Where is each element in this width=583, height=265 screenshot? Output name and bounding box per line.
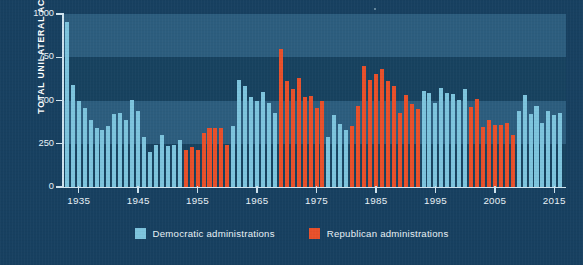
bar-1968[interactable] xyxy=(273,113,277,187)
bar-1980[interactable] xyxy=(344,130,348,187)
bar-2003[interactable] xyxy=(481,127,485,187)
bar-1990[interactable] xyxy=(404,95,408,187)
bar-2011[interactable] xyxy=(529,114,533,187)
bar-1964[interactable] xyxy=(249,97,253,187)
y-tick-label-1000: 1000 xyxy=(16,8,54,18)
y-tick-750 xyxy=(56,57,63,58)
bar-1955[interactable] xyxy=(196,150,200,187)
bar-1976[interactable] xyxy=(320,101,324,188)
speck-artifact xyxy=(374,8,376,10)
bar-2012[interactable] xyxy=(534,106,538,187)
bar-1993[interactable] xyxy=(422,91,426,187)
bar-1952[interactable] xyxy=(178,140,182,187)
bar-2014[interactable] xyxy=(546,111,550,187)
bar-1971[interactable] xyxy=(291,89,295,187)
bar-1936[interactable] xyxy=(83,108,87,187)
bar-1973[interactable] xyxy=(303,97,307,187)
bar-1992[interactable] xyxy=(416,109,420,187)
bar-1981[interactable] xyxy=(350,126,354,187)
bar-1943[interactable] xyxy=(124,120,128,187)
bar-1938[interactable] xyxy=(95,128,99,187)
bar-1946[interactable] xyxy=(142,137,146,187)
bar-1935[interactable] xyxy=(77,101,81,187)
bar-1982[interactable] xyxy=(356,106,360,187)
bar-1996[interactable] xyxy=(439,88,443,187)
legend-item-republican: Republican administrations xyxy=(309,228,449,239)
legend-swatch-democratic xyxy=(135,228,146,239)
bar-1948[interactable] xyxy=(154,145,158,187)
bar-1949[interactable] xyxy=(160,135,164,187)
bar-1985[interactable] xyxy=(374,74,378,187)
bar-1995[interactable] xyxy=(433,103,437,187)
bar-1975[interactable] xyxy=(315,108,319,187)
bar-1972[interactable] xyxy=(297,78,301,187)
bar-1970[interactable] xyxy=(285,81,289,187)
bar-1939[interactable] xyxy=(100,130,104,187)
bar-2004[interactable] xyxy=(487,120,491,187)
bar-1965[interactable] xyxy=(255,101,259,188)
bar-1963[interactable] xyxy=(243,86,247,187)
bar-1967[interactable] xyxy=(267,103,271,187)
bar-1966[interactable] xyxy=(261,92,265,187)
bar-1987[interactable] xyxy=(386,81,390,187)
legend-label-republican: Republican administrations xyxy=(327,228,449,239)
bar-1999[interactable] xyxy=(457,100,461,187)
bar-2006[interactable] xyxy=(499,125,503,187)
bar-1953[interactable] xyxy=(184,150,188,187)
chart-root: TOTAL UNILATERAL ACTIONS 10007505002500 … xyxy=(0,0,583,265)
bar-1959[interactable] xyxy=(219,128,223,187)
bar-1942[interactable] xyxy=(118,113,122,187)
bar-1950[interactable] xyxy=(166,146,170,187)
y-tick-label-750: 750 xyxy=(16,51,54,61)
y-axis-tick-labels: 10007505002500 xyxy=(12,0,54,265)
bar-1960[interactable] xyxy=(225,145,229,187)
bar-1978[interactable] xyxy=(332,115,336,187)
bar-2005[interactable] xyxy=(493,125,497,187)
bar-1957[interactable] xyxy=(207,128,211,187)
bar-1962[interactable] xyxy=(237,80,241,187)
x-tick-1975 xyxy=(316,186,317,193)
y-tick-label-500: 500 xyxy=(16,95,54,105)
bar-1956[interactable] xyxy=(202,133,206,187)
bar-1941[interactable] xyxy=(112,114,116,187)
bar-2008[interactable] xyxy=(511,135,515,187)
bar-1940[interactable] xyxy=(106,126,110,187)
bar-2001[interactable] xyxy=(469,107,473,187)
bar-1934[interactable] xyxy=(71,85,75,187)
bar-1977[interactable] xyxy=(326,137,330,187)
bar-1933[interactable] xyxy=(65,22,69,187)
bar-1991[interactable] xyxy=(410,104,414,187)
x-tick-2005 xyxy=(494,186,495,193)
bar-1937[interactable] xyxy=(89,120,93,187)
x-tick-label-1975: 1975 xyxy=(297,195,337,206)
bar-1997[interactable] xyxy=(445,93,449,187)
bar-2002[interactable] xyxy=(475,99,479,187)
bar-1951[interactable] xyxy=(172,145,176,187)
bar-1947[interactable] xyxy=(148,152,152,187)
bar-2007[interactable] xyxy=(505,123,509,187)
bar-1958[interactable] xyxy=(213,128,217,187)
bar-1984[interactable] xyxy=(368,80,372,187)
bar-2010[interactable] xyxy=(523,95,527,187)
bar-2000[interactable] xyxy=(463,89,467,187)
bar-1979[interactable] xyxy=(338,124,342,187)
bar-2015[interactable] xyxy=(552,115,556,187)
bar-1986[interactable] xyxy=(380,69,384,187)
bar-1974[interactable] xyxy=(309,96,313,187)
bar-1945[interactable] xyxy=(136,111,140,187)
bar-2009[interactable] xyxy=(517,111,521,187)
bar-1944[interactable] xyxy=(130,100,134,187)
x-tick-1985 xyxy=(375,186,376,193)
bar-1988[interactable] xyxy=(392,86,396,187)
bar-1989[interactable] xyxy=(398,113,402,187)
bar-2013[interactable] xyxy=(540,123,544,187)
bar-1954[interactable] xyxy=(190,147,194,187)
bar-1994[interactable] xyxy=(427,93,431,187)
bar-1961[interactable] xyxy=(231,126,235,187)
bar-1998[interactable] xyxy=(451,94,455,187)
x-tick-label-1985: 1985 xyxy=(356,195,396,206)
bar-1983[interactable] xyxy=(362,66,366,187)
bar-1969[interactable] xyxy=(279,49,283,187)
bar-2016[interactable] xyxy=(558,113,562,187)
y-tick-0 xyxy=(56,186,63,187)
